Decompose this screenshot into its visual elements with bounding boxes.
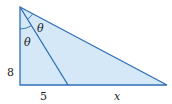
angle-label-lower: θ [24,36,31,49]
base-label-5: 5 [40,90,47,103]
triangle-diagram: θ θ 8 5 x [0,0,172,104]
base-label-x: x [114,90,121,103]
angle-label-upper: θ [37,22,44,35]
side-label-8: 8 [7,66,14,79]
right-triangle [20,7,167,85]
